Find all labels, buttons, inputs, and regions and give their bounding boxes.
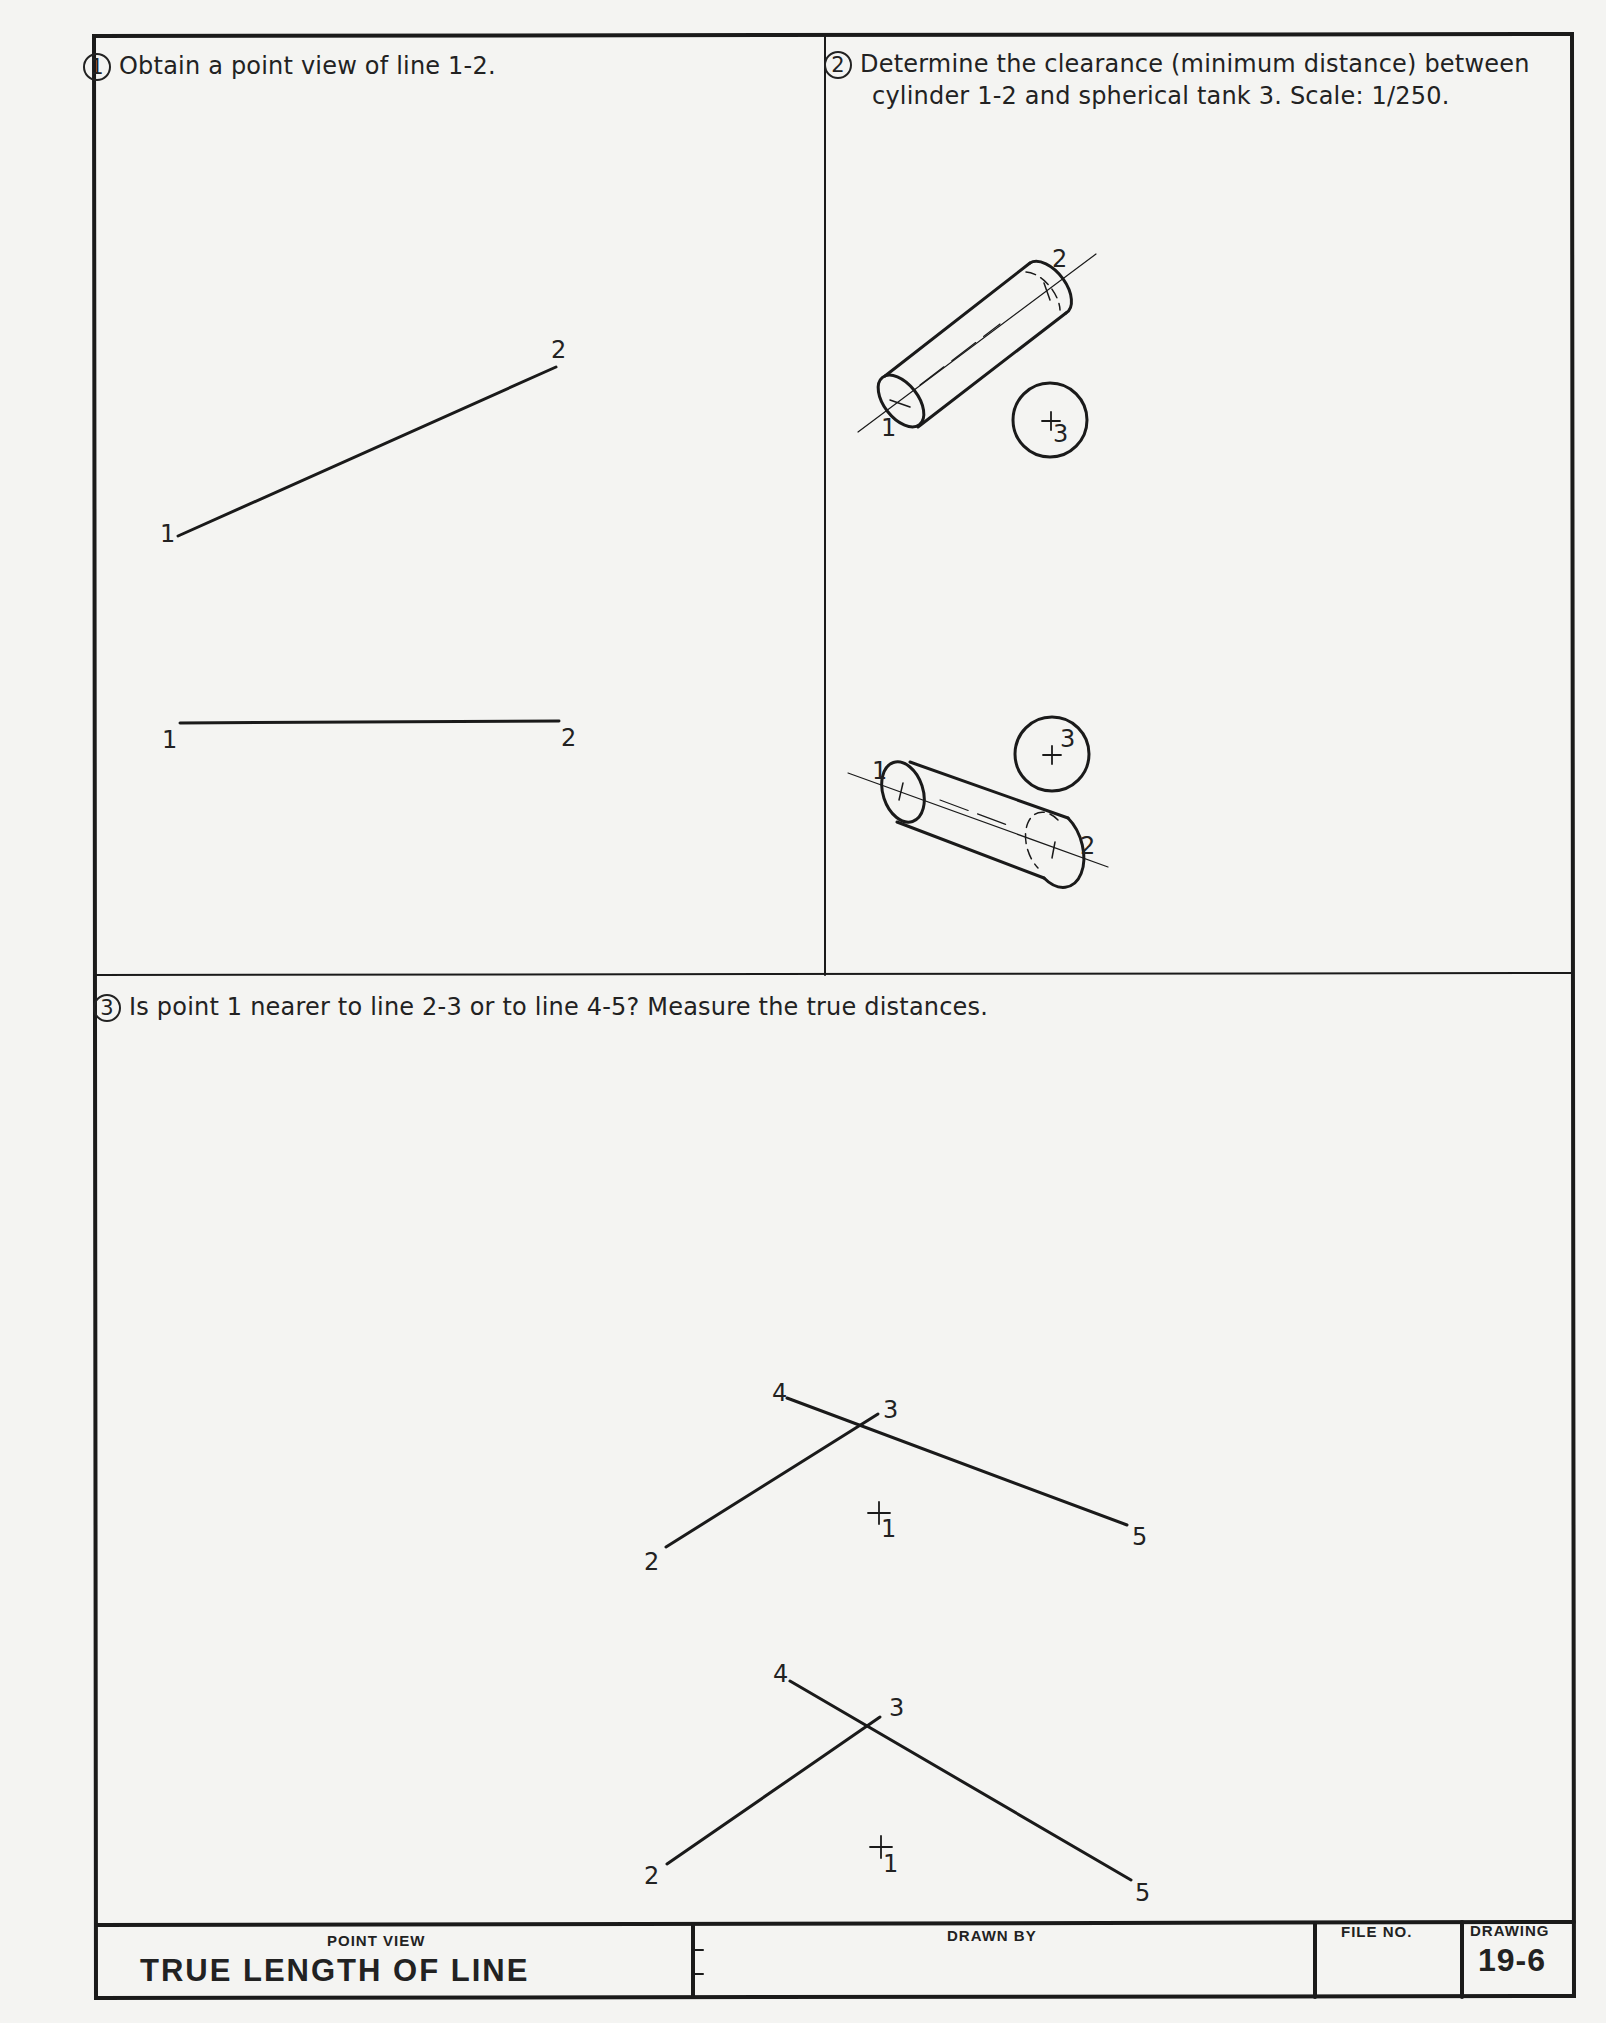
p3-front-label-2: 2 (644, 1862, 659, 1890)
p3-front-line-4-5 (790, 1681, 1131, 1880)
p3-top-label-2: 2 (644, 1548, 659, 1576)
file-no-label: FILE NO. (1341, 1923, 1412, 1940)
p3-front-label-4: 4 (773, 1660, 788, 1688)
problem-number-badge: 3 (93, 994, 121, 1022)
p2-front-label-1: 1 (872, 757, 887, 785)
p3-top-label-4: 4 (772, 1379, 787, 1407)
p3-front-label-5: 5 (1135, 1879, 1150, 1907)
problem-number-badge: 1 (83, 53, 111, 81)
p2-front-label-2: 2 (1080, 832, 1095, 860)
title-subtitle: POINT VIEW (327, 1932, 425, 1949)
problem-2-text-line1: Determine the clearance (minimum distanc… (860, 50, 1530, 78)
p2-top-label-1: 1 (881, 414, 896, 442)
problem-3-heading: 3Is point 1 nearer to line 2-3 or to lin… (93, 993, 988, 1022)
p1-front-label-1: 1 (162, 726, 177, 754)
p1-top-label-1: 1 (160, 520, 175, 548)
drawing-sheet: 1Obtain a point view of line 1-2. 2Deter… (0, 0, 1606, 2023)
p3-front-label-1: 1 (883, 1850, 898, 1878)
p3-top-line-4-5 (787, 1398, 1127, 1525)
p1-front-line-1-2 (180, 721, 559, 723)
p1-top-line-1-2 (178, 367, 556, 536)
p3-top-line-2-3 (666, 1414, 878, 1547)
p2-top-label-3: 3 (1053, 420, 1068, 448)
problem-1-heading: 1Obtain a point view of line 1-2. (83, 52, 496, 81)
problem-2-text-line2: cylinder 1-2 and spherical tank 3. Scale… (872, 82, 1450, 110)
p2-top-sphere-3 (1013, 383, 1087, 457)
p3-front-label-3: 3 (889, 1694, 904, 1722)
p1-front-label-2: 2 (561, 724, 576, 752)
p3-front-line-2-3 (667, 1717, 880, 1864)
problem-3-text: Is point 1 nearer to line 2-3 or to line… (129, 993, 988, 1021)
problem-1-text: Obtain a point view of line 1-2. (119, 52, 496, 80)
problem-2-heading: 2Determine the clearance (minimum distan… (824, 50, 1530, 79)
p2-top-label-2: 2 (1052, 245, 1067, 273)
problem-number-badge: 2 (824, 51, 852, 79)
p3-top-label-3: 3 (883, 1396, 898, 1424)
p3-top-label-5: 5 (1132, 1523, 1147, 1551)
horizontal-divider (94, 973, 1572, 975)
p2-top-cylinder (858, 254, 1096, 435)
title-main: TRUE LENGTH OF LINE (140, 1953, 529, 1989)
drawn-by-label: DRAWN BY (947, 1927, 1037, 1944)
p2-front-label-3: 3 (1060, 725, 1075, 753)
p1-top-label-2: 2 (551, 336, 566, 364)
drawing-label: DRAWING (1470, 1922, 1550, 1939)
drawing-number: 19-6 (1478, 1942, 1546, 1979)
p3-top-label-1: 1 (881, 1515, 896, 1543)
